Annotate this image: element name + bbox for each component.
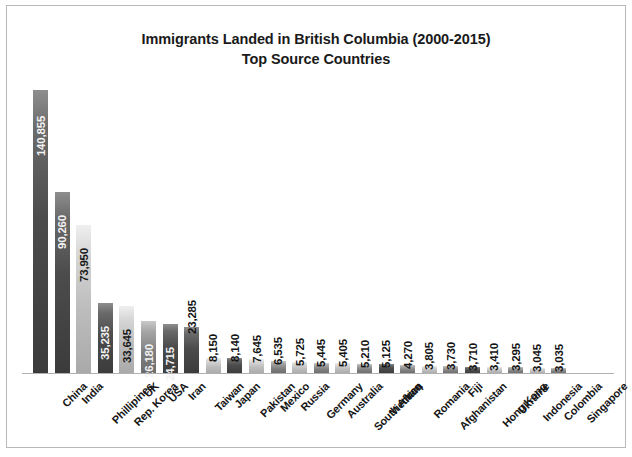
bar-value-label: 5,125 — [380, 340, 392, 368]
bar-value-label: 3,730 — [445, 343, 457, 371]
bar-slot: 23,285 — [184, 90, 199, 374]
bar[interactable] — [184, 327, 199, 374]
bar-slot: 5,405 — [335, 90, 350, 374]
bar-value-label: 3,805 — [423, 342, 435, 370]
plot-area: 140,85590,26073,95035,23533,64526,18024,… — [22, 90, 614, 374]
bar-value-label: 8,140 — [229, 334, 241, 362]
bar-value-label: 35,235 — [99, 326, 111, 360]
bar-slot: 3,730 — [443, 90, 458, 374]
bar-slot: 3,295 — [508, 90, 523, 374]
bar-slot: 140,855 — [33, 90, 48, 374]
bar-slot: 5,725 — [292, 90, 307, 374]
category-axis-labels: ChinaIndiaPhillipinesRep. KoreaUKUSAIran… — [22, 376, 614, 454]
bar-slot: 3,710 — [465, 90, 480, 374]
chart-subtitle: Top Source Countries — [0, 50, 632, 70]
bar-slot: 90,260 — [55, 90, 70, 374]
bar-value-label: 33,645 — [121, 329, 133, 363]
bar-value-label: 23,285 — [186, 300, 198, 334]
bar-value-label: 3,045 — [531, 344, 543, 372]
bar-slot: 24,715 — [163, 90, 178, 374]
bar-slot: 4,270 — [400, 90, 415, 374]
bar-value-label: 5,445 — [315, 339, 327, 367]
bar-value-label: 90,260 — [56, 215, 68, 249]
bar-slot: 7,645 — [249, 90, 264, 374]
bar-value-label: 5,725 — [294, 339, 306, 367]
bar-value-label: 3,295 — [510, 343, 522, 371]
chart-title-block: Immigrants Landed in British Columbia (2… — [0, 30, 632, 69]
bar-slot: 3,045 — [530, 90, 545, 374]
bar-slot: 5,125 — [379, 90, 394, 374]
category-label: Iran — [186, 380, 208, 402]
bar-value-label: 5,210 — [359, 340, 371, 368]
bar-slot: 3,410 — [487, 90, 502, 374]
bar-value-label: 6,535 — [272, 337, 284, 365]
bar-slot: 73,950 — [76, 90, 91, 374]
chart-title: Immigrants Landed in British Columbia (2… — [0, 30, 632, 50]
bar-slot: 26,180 — [141, 90, 156, 374]
bar-value-label: 7,645 — [251, 335, 263, 363]
bar-slot: 8,140 — [227, 90, 242, 374]
bar-slot: 3,035 — [551, 90, 566, 374]
bar-slot: 35,235 — [98, 90, 113, 374]
bar-value-label: 3,410 — [488, 343, 500, 371]
chart-container: Immigrants Landed in British Columbia (2… — [0, 0, 632, 457]
bar-value-label: 3,710 — [467, 343, 479, 371]
category-label: Fiji — [465, 380, 484, 399]
bar-slot: 6,535 — [271, 90, 286, 374]
bar-value-label: 3,035 — [553, 344, 565, 372]
bar-value-label: 5,405 — [337, 339, 349, 367]
bar-slot: 5,445 — [314, 90, 329, 374]
bar-slot: 8,150 — [206, 90, 221, 374]
bar-value-label: 4,270 — [402, 342, 414, 370]
bar-value-label: 8,150 — [207, 334, 219, 362]
bar-slot: 33,645 — [119, 90, 134, 374]
category-axis-line — [22, 373, 614, 374]
bar-value-label: 73,950 — [78, 248, 90, 282]
bar-slot: 3,805 — [422, 90, 437, 374]
bar-value-label: 140,855 — [35, 116, 47, 156]
bar-slot: 5,210 — [357, 90, 372, 374]
